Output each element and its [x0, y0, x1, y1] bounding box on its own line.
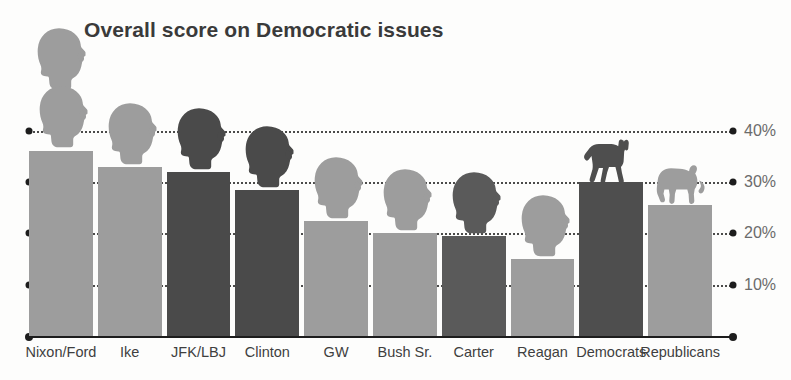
axis-tick-dot-right	[730, 179, 737, 186]
category-label-bush-sr: Bush Sr.	[377, 344, 432, 360]
category-label-carter: Carter	[454, 344, 494, 360]
bar-jfk-lbj[interactable]	[167, 172, 231, 336]
category-label-ike: Ike	[120, 344, 139, 360]
axis-tick-dot-left	[26, 127, 33, 134]
president-head-icon	[447, 171, 500, 235]
president-head-icon	[310, 156, 363, 220]
bar-republicans[interactable]	[648, 205, 712, 336]
president-head-icon	[32, 27, 85, 91]
category-label-jfk-lbj: JFK/LBJ	[171, 344, 226, 360]
president-head-icon	[241, 125, 294, 189]
axis-tick-dot-right	[730, 230, 737, 237]
president-head-icon	[172, 107, 225, 171]
y-axis-label-10%: 10%	[744, 276, 776, 294]
x-axis-baseline	[29, 336, 733, 338]
plot-area: 10%20%30%40%Nixon/FordIkeJFK/LBJClintonG…	[0, 0, 791, 380]
bar-reagan[interactable]	[511, 259, 575, 336]
axis-tick-dot-right	[730, 281, 737, 288]
bar-carter[interactable]	[442, 236, 506, 336]
category-label-democrats: Democrats	[576, 344, 646, 360]
bar-democrats[interactable]	[579, 182, 643, 336]
president-head-icon	[516, 194, 569, 258]
category-label-gw: GW	[324, 344, 349, 360]
bar-bush-sr[interactable]	[373, 233, 437, 336]
president-head-icon	[103, 102, 156, 166]
category-label-clinton: Clinton	[245, 344, 290, 360]
bar-nixon-ford[interactable]	[29, 151, 93, 336]
y-axis-label-30%: 30%	[744, 173, 776, 191]
y-axis-label-40%: 40%	[744, 122, 776, 140]
donkey-icon	[581, 138, 637, 184]
category-label-republicans: Republicans	[640, 344, 720, 360]
axis-tick-dot-right	[730, 127, 737, 134]
president-head-icon	[34, 85, 87, 149]
category-label-nixon-ford: Nixon/Ford	[25, 344, 96, 360]
bar-gw[interactable]	[304, 221, 368, 336]
chart-root: Overall score on Democratic issues 10%20…	[0, 0, 791, 380]
elephant-icon	[652, 163, 712, 207]
president-head-icon	[378, 168, 431, 232]
category-label-reagan: Reagan	[517, 344, 568, 360]
bar-clinton[interactable]	[235, 190, 299, 336]
y-axis-label-20%: 20%	[744, 224, 776, 242]
baseline-dot-right	[729, 333, 737, 341]
bar-ike[interactable]	[98, 167, 162, 336]
